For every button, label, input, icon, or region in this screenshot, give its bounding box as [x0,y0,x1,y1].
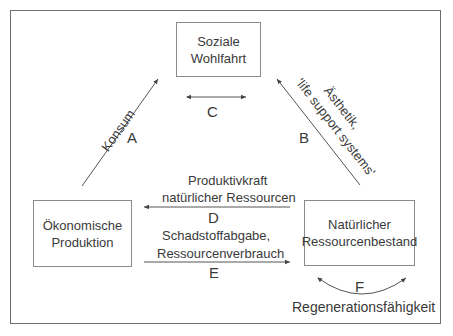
node-natural-line2: Ressourcenbestand [302,233,418,250]
edge-a-letter: A [127,130,137,146]
node-social-line2: Wohlfahrt [191,50,246,67]
node-natural-resources: Natürlicher Ressourcenbestand [304,200,415,266]
edge-e-letter: E [209,265,219,281]
node-economic-production: Ökonomische Produktion [33,200,132,267]
node-social-welfare: Soziale Wohlfahrt [176,22,261,77]
edge-e-label-line1: Schadstoffabgabe, [162,228,270,243]
node-economic-line2: Produktion [51,234,113,251]
edge-f-letter: F [355,279,364,295]
node-economic-line1: Ökonomische [43,217,122,234]
edge-e-label-line2: Ressourcenverbrauch [157,246,284,261]
edge-d-letter: D [208,210,219,226]
edge-b-letter: B [299,130,309,146]
edge-f-label: Regenerationsfähigkeit [292,300,435,315]
node-natural-line1: Natürlicher [328,216,391,233]
edge-c-letter: C [207,104,218,120]
edge-d-label-line1: Produktivkraft [188,173,267,188]
node-social-line1: Soziale [197,33,240,50]
edge-d-label-line2: natürlicher Ressourcen [162,190,296,205]
